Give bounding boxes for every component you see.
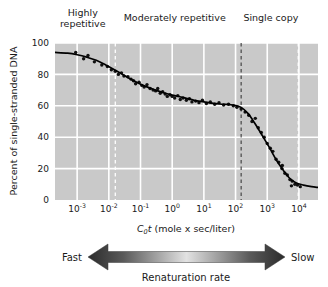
chart-canvas: HighlyrepetitiveModerately repetitiveSin… — [0, 0, 328, 287]
x-tick-label: 102 — [228, 202, 243, 214]
x-tick-label: 10-2 — [100, 202, 118, 214]
y-tick-label: 0 — [43, 195, 49, 205]
data-point — [173, 96, 176, 99]
x-tick-label: 104 — [291, 202, 306, 214]
region-label: Highly — [68, 7, 98, 18]
region-label: repetitive — [60, 18, 106, 29]
region-label: Moderately repetitive — [124, 12, 226, 23]
double-headed-arrow-shape — [88, 244, 285, 270]
x-tick-label: 10-3 — [68, 202, 86, 214]
y-tick-label: 60 — [38, 101, 50, 111]
data-point — [299, 185, 302, 188]
cot-curve-figure: HighlyrepetitiveModerately repetitiveSin… — [0, 0, 328, 287]
x-tick-label: 100 — [164, 202, 179, 214]
plot-area-background — [55, 43, 318, 200]
data-point — [290, 184, 293, 187]
y-tick-label: 20 — [38, 164, 50, 174]
arrow-left-label: Fast — [62, 252, 82, 263]
x-tick-label: 103 — [260, 202, 275, 214]
y-axis-ticks: 020406080100 — [32, 38, 49, 205]
x-tick-label: 10-1 — [132, 202, 150, 214]
y-tick-label: 100 — [32, 38, 49, 48]
x-tick-label: 101 — [196, 202, 211, 214]
x-axis-ticks: 10-310-210-1100101102103104 — [68, 202, 306, 214]
region-labels: HighlyrepetitiveModerately repetitiveSin… — [60, 7, 299, 29]
data-point — [82, 57, 85, 60]
x-axis-title: C0t (mole x sec/liter) — [137, 223, 235, 236]
data-point — [254, 117, 257, 120]
arrow-right-label: Slow — [291, 252, 314, 263]
arrow-caption: Renaturation rate — [142, 272, 230, 283]
y-axis-title: Percent of single-stranded DNA — [8, 46, 19, 195]
x-axis-title-units: (mole x sec/liter) — [151, 223, 235, 234]
y-tick-label: 40 — [38, 132, 50, 142]
y-tick-label: 80 — [38, 70, 50, 80]
renaturation-rate-arrow — [88, 244, 285, 270]
region-label: Single copy — [243, 12, 298, 23]
